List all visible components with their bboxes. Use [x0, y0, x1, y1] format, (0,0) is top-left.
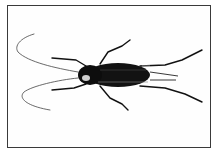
cricket-illustration — [0, 0, 220, 154]
cricket-body — [78, 63, 150, 87]
antennae — [17, 34, 78, 110]
cerci — [150, 72, 178, 80]
